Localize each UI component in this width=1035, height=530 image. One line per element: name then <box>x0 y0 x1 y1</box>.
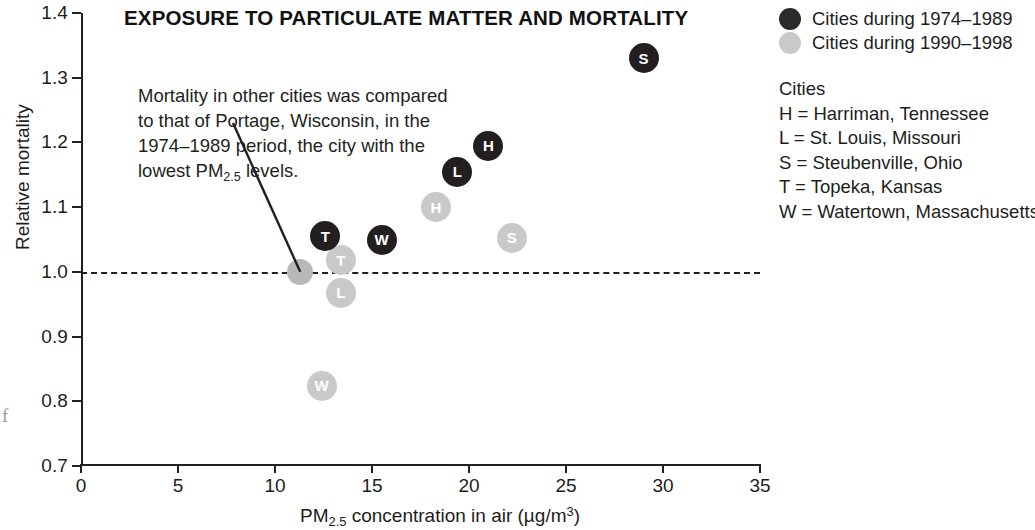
x-tick-0 <box>80 464 82 473</box>
y-tick-label-0.7: 0.7 <box>41 455 68 477</box>
legend: Cities during 1974–1989 Cities during 19… <box>779 7 1035 224</box>
data-point-S-1974-1989[interactable]: S <box>629 43 659 73</box>
annotation-line-4: lowest PM2.5 levels. <box>138 158 458 186</box>
page-edge-glyph: f <box>2 405 8 427</box>
annotation-line-1: Mortality in other cities was compared <box>138 83 458 108</box>
y-tick-1.0 <box>72 271 81 273</box>
annotation-line-3: 1974–1989 period, the city with the <box>138 133 458 158</box>
y-tick-label-1.3: 1.3 <box>41 67 68 89</box>
dark-circle-marker-icon <box>779 8 801 30</box>
x-tick-label-0: 0 <box>76 475 87 497</box>
data-point-L-1990-1998[interactable]: L <box>326 278 356 308</box>
legend-row-1990-1998[interactable]: Cities during 1990–1998 <box>779 31 1035 55</box>
plot-area: 0.70.80.91.01.11.21.31.4 05101520253035 … <box>81 13 760 466</box>
x-tick-15 <box>371 464 373 473</box>
reference-line-1.0 <box>81 272 760 274</box>
x-tick-25 <box>565 464 567 473</box>
x-tick-label-20: 20 <box>458 475 479 497</box>
y-tick-0.9 <box>72 336 81 338</box>
x-tick-20 <box>468 464 470 473</box>
legend-cities-block: Cities H = Harriman, Tennessee L = St. L… <box>779 77 1035 224</box>
annotation-line-4-post: levels. <box>241 160 299 181</box>
y-tick-1.4 <box>72 12 81 14</box>
legend-city-w: W = Watertown, Massachusetts <box>779 200 1035 225</box>
legend-city-l: L = St. Louis, Missouri <box>779 126 1035 151</box>
legend-row-1974-1989[interactable]: Cities during 1974–1989 <box>779 7 1035 31</box>
legend-city-h: H = Harriman, Tennessee <box>779 102 1035 127</box>
annotation-line-4-pre: lowest PM <box>138 160 223 181</box>
y-tick-label-1.2: 1.2 <box>41 131 68 153</box>
data-point-H-1974-1989[interactable]: H <box>473 131 503 161</box>
x-tick-label-15: 15 <box>361 475 382 497</box>
y-tick-label-1.1: 1.1 <box>41 196 68 218</box>
y-tick-label-1.0: 1.0 <box>41 261 68 283</box>
y-axis-title: Relative mortality <box>12 104 34 250</box>
annotation-text: Mortality in other cities was compared t… <box>138 83 458 186</box>
data-point-S-1990-1998[interactable]: S <box>497 223 527 253</box>
x-tick-label-5: 5 <box>173 475 184 497</box>
data-point-W-1974-1989[interactable]: W <box>367 225 397 255</box>
x-tick-label-35: 35 <box>749 475 770 497</box>
x-tick-35 <box>759 464 761 473</box>
x-axis-title-post: concentration in air (µg/m <box>346 505 566 526</box>
y-axis-line <box>81 13 83 466</box>
annotation-subscript: 2.5 <box>223 170 241 184</box>
x-axis-title: PM2.5 concentration in air (µg/m3) <box>300 505 580 527</box>
y-tick-label-0.8: 0.8 <box>41 390 68 412</box>
legend-label-1974-1989: Cities during 1974–1989 <box>812 8 1013 30</box>
x-axis-title-superscript: 3 <box>566 504 573 519</box>
x-axis-title-pre: PM <box>300 505 329 526</box>
light-circle-marker-icon <box>779 32 801 54</box>
x-tick-label-25: 25 <box>555 475 576 497</box>
data-point-W-1990-1998[interactable]: W <box>307 371 337 401</box>
y-tick-1.2 <box>72 141 81 143</box>
x-tick-label-10: 10 <box>264 475 285 497</box>
legend-city-s: S = Steubenville, Ohio <box>779 151 1035 176</box>
legend-cities-heading: Cities <box>779 77 1035 102</box>
x-tick-5 <box>177 464 179 473</box>
y-tick-1.3 <box>72 77 81 79</box>
x-axis-title-subscript: 2.5 <box>328 514 346 529</box>
annotation-line-2: to that of Portage, Wisconsin, in the <box>138 108 458 133</box>
x-tick-10 <box>274 464 276 473</box>
legend-label-1990-1998: Cities during 1990–1998 <box>812 32 1013 54</box>
data-point-T-1974-1989[interactable]: T <box>310 221 340 251</box>
data-point-portage-1990-1998[interactable] <box>287 259 313 285</box>
x-tick-30 <box>662 464 664 473</box>
y-tick-label-1.4: 1.4 <box>41 2 68 24</box>
data-point-H-1990-1998[interactable]: H <box>421 192 451 222</box>
x-tick-label-30: 30 <box>652 475 673 497</box>
legend-city-t: T = Topeka, Kansas <box>779 175 1035 200</box>
y-tick-1.1 <box>72 206 81 208</box>
y-tick-label-0.9: 0.9 <box>41 326 68 348</box>
x-axis-title-tail: ) <box>574 505 580 526</box>
x-axis-line <box>81 464 760 466</box>
y-tick-0.8 <box>72 400 81 402</box>
